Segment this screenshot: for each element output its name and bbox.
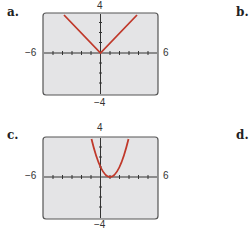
graph-c bbox=[43, 137, 158, 219]
graphs-canvas bbox=[0, 0, 252, 232]
graph-a bbox=[43, 13, 158, 95]
